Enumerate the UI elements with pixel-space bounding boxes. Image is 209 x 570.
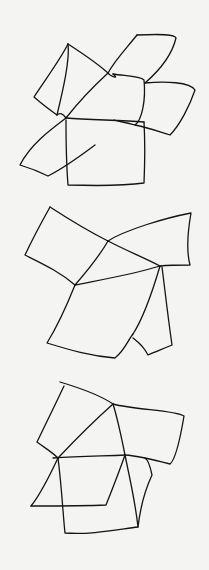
- sketch-stroke: [113, 74, 145, 125]
- sketch-stroke: [20, 118, 95, 176]
- sketch-stroke: [58, 404, 113, 458]
- sketch-stroke: [113, 404, 125, 455]
- sketch-stroke: [108, 35, 137, 73]
- sketch-stroke: [50, 207, 108, 241]
- sketch-stroke: [58, 458, 138, 533]
- sketch-3: [31, 382, 184, 533]
- sketch-stroke: [125, 455, 152, 527]
- sketch-stroke: [75, 241, 108, 285]
- sketch-stroke: [31, 458, 58, 506]
- sketch-stroke: [108, 213, 191, 266]
- sketch-stroke: [137, 34, 176, 83]
- sketch-stroke: [31, 455, 125, 506]
- sketch-1: [20, 34, 195, 185]
- sketch-stroke: [66, 73, 108, 118]
- sketch-stroke: [133, 267, 172, 355]
- sketch-stroke: [66, 118, 144, 122]
- sketch-2: [25, 207, 191, 358]
- sketch-stroke: [108, 241, 160, 266]
- sketch-stroke: [53, 455, 125, 458]
- sketch-stroke: [34, 44, 68, 118]
- sketch-stroke: [60, 382, 113, 404]
- line-drawings: [0, 0, 209, 570]
- sketch-stroke: [47, 285, 133, 358]
- sketch-stroke: [37, 386, 64, 458]
- sketch-stroke: [66, 120, 145, 185]
- sketch-canvas: [0, 0, 209, 570]
- sketch-stroke: [133, 266, 160, 334]
